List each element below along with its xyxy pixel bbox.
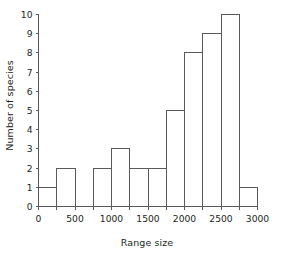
y-axis-tick-label: 8 — [27, 47, 33, 58]
y-axis-tick-label: 0 — [27, 201, 33, 212]
x-axis-tick-label: 2500 — [209, 213, 233, 224]
x-axis-tick-label: 2000 — [173, 213, 197, 224]
histogram-bar — [93, 168, 111, 206]
histogram-bar — [203, 34, 221, 207]
x-axis-tick-label: 1500 — [136, 213, 160, 224]
y-axis-tick-label: 9 — [27, 28, 33, 39]
histogram-bar — [221, 15, 239, 207]
histogram-bar — [166, 111, 184, 207]
histogram-bar — [130, 168, 148, 206]
x-axis-tick-label: 500 — [66, 213, 84, 224]
histogram-bar — [112, 149, 130, 207]
histogram-bar — [239, 187, 257, 206]
y-axis-tick-label: 2 — [27, 163, 33, 174]
histogram-bar — [185, 53, 203, 207]
y-axis-tick-label: 6 — [27, 86, 33, 97]
histogram-bar — [148, 168, 166, 206]
plot-area: 012345678910050010001500200025003000 — [0, 0, 286, 259]
x-axis-title: Range size — [36, 237, 258, 248]
y-axis-tick-label: 5 — [27, 105, 33, 116]
y-axis-tick-label: 10 — [21, 9, 33, 20]
histogram-bar — [39, 187, 57, 206]
y-axis-tick-label: 7 — [27, 67, 33, 78]
histogram-figure: Number of species 0123456789100500100015… — [0, 0, 286, 259]
x-axis-tick-label: 1000 — [100, 213, 124, 224]
y-axis-tick-label: 4 — [27, 124, 33, 135]
x-axis-tick-label: 3000 — [246, 213, 270, 224]
histogram-bar — [57, 168, 75, 206]
y-axis-tick-label: 1 — [27, 182, 33, 193]
y-axis-tick-label: 3 — [27, 143, 33, 154]
x-axis-tick-label: 0 — [36, 213, 42, 224]
